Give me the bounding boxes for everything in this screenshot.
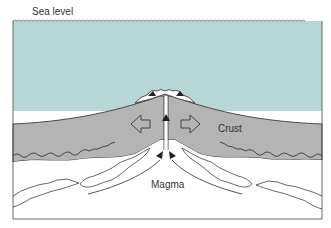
- ridge-diagram: [0, 0, 331, 228]
- sea-surface-line: [13, 20, 305, 21]
- crust-label: Crust: [218, 123, 242, 134]
- magma-label: Magma: [151, 179, 184, 190]
- sea-level-label: Sea level: [32, 6, 73, 17]
